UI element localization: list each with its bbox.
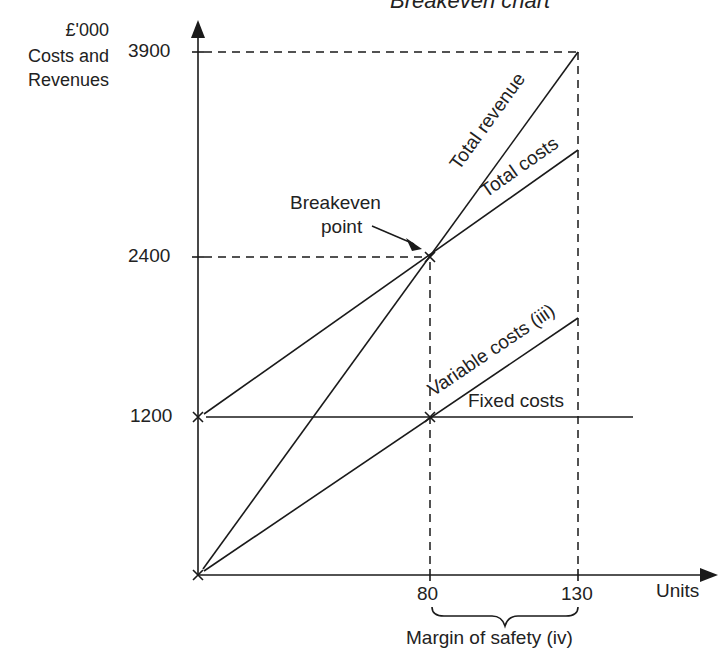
y-tick-2400: 2400 [128,245,170,267]
x-axis-label: Units [656,580,699,602]
y-axis-label-line1: Costs and [28,44,109,68]
breakeven-chart [0,0,727,661]
breakeven-label-line2: point [321,216,362,238]
margin-of-safety-label: Margin of safety (iv) [406,627,573,649]
margin-of-safety-brace [432,607,578,626]
y-tick-1200: 1200 [130,405,172,427]
fixed-costs-label: Fixed costs [468,390,564,412]
y-axis-label-line2: Revenues [28,68,109,92]
breakeven-label-line1: Breakeven [290,192,381,214]
y-axis-unit: £'000 [66,18,109,42]
y-axis-arrow-icon [191,20,205,38]
breakeven-arrowhead-icon [406,238,422,251]
variable-costs-line [204,318,578,571]
y-tick-3900: 3900 [128,40,170,62]
x-axis-arrow-icon [700,568,718,582]
total-revenue-line [203,52,578,569]
x-tick-130: 130 [561,583,593,605]
total-costs-line [204,150,578,414]
x-tick-80: 80 [417,583,438,605]
